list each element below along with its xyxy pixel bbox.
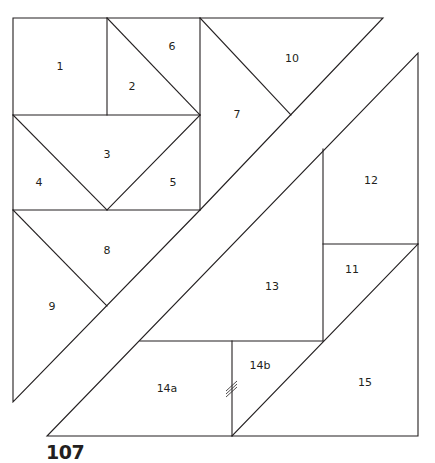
piece-label-6: 6 <box>169 40 176 53</box>
line-14b-15 <box>232 244 418 436</box>
line-3-5 <box>107 115 200 210</box>
line-3-4 <box>13 115 107 210</box>
piece-label-15: 15 <box>358 376 372 389</box>
piece-label-11: 11 <box>345 263 359 276</box>
piece-label-2: 2 <box>129 80 136 93</box>
piece-label-1: 1 <box>57 60 64 73</box>
piece-label-7: 7 <box>234 108 241 121</box>
piece-label-4: 4 <box>36 176 43 189</box>
piece-label-14b: 14b <box>250 359 271 372</box>
piece-label-14a: 14a <box>157 382 178 395</box>
line-2-6 <box>107 18 200 115</box>
piece-labels: 1 2 3 4 5 6 7 8 9 10 11 12 13 14a 14b 15 <box>36 40 379 395</box>
piece-label-8: 8 <box>104 244 111 257</box>
piece-label-13: 13 <box>265 280 279 293</box>
line-8-9 <box>13 210 107 306</box>
piece-label-9: 9 <box>49 300 56 313</box>
line-7-10 <box>200 18 291 115</box>
piece-label-12: 12 <box>364 174 378 187</box>
pattern-number: 107 <box>46 441 84 463</box>
piece-label-5: 5 <box>170 176 177 189</box>
piece-label-10: 10 <box>285 52 299 65</box>
piece-label-3: 3 <box>104 148 111 161</box>
quilt-block-diagram: 1 2 3 4 5 6 7 8 9 10 11 12 13 14a 14b 15 <box>0 0 435 463</box>
